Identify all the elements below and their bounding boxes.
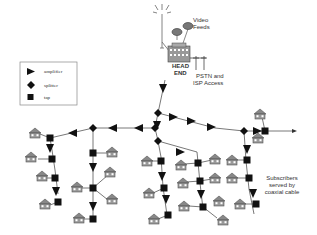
amplifier-icon [159, 84, 167, 93]
house-icon [143, 188, 155, 198]
amplifier-icon [68, 129, 77, 137]
tap-icon [49, 156, 56, 163]
svg-text:amplifier: amplifier [44, 69, 63, 74]
headend-building-icon [168, 43, 190, 62]
splitter-icon [154, 109, 162, 117]
house-icon [213, 196, 225, 206]
house-icon [209, 154, 221, 164]
subscribers-annotation: Subscribers served by coaxial cable [265, 175, 300, 195]
svg-text:splitter: splitter [44, 83, 58, 88]
amplifier-icon [134, 124, 143, 132]
tap-icon [165, 212, 172, 219]
tap-icon [195, 160, 202, 167]
splitter-icon [240, 127, 248, 135]
amplifier-icon [162, 195, 170, 204]
headend-group: Video Feeds HEAD END PSTN and ISP Access [153, 4, 224, 86]
house-icon [36, 171, 48, 181]
house-icon [175, 160, 187, 170]
amplifier-icon [108, 124, 117, 132]
house-icon [141, 156, 153, 166]
svg-text:coaxial cable: coaxial cable [265, 189, 300, 195]
amplifier-icon [197, 190, 205, 199]
tap-icon [90, 216, 97, 223]
amplifier-icon [207, 123, 216, 131]
house-icon [217, 215, 229, 225]
video-feeds-label: Video [193, 17, 209, 23]
splitter-icon [154, 137, 162, 145]
tap-icon [90, 150, 97, 157]
tap-icon [55, 199, 62, 206]
splitter-icon [89, 124, 97, 132]
house-icon [209, 173, 221, 183]
cable-network-diagram: Video Feeds HEAD END PSTN and ISP Access [0, 0, 317, 235]
house-icon [234, 199, 246, 209]
amplifier-icon [187, 117, 196, 125]
house-icon [29, 128, 41, 138]
amplifier-icon [169, 113, 178, 121]
house-icon [178, 201, 190, 211]
amplifier-icon [52, 187, 60, 196]
house-icon [148, 214, 160, 224]
tap-icon [197, 178, 204, 185]
house-icon [71, 182, 83, 192]
amplifier-icon [89, 163, 97, 172]
svg-text:served by: served by [269, 182, 295, 188]
tap-icon [253, 201, 260, 208]
tap-icon [158, 158, 165, 165]
svg-text:tap: tap [44, 95, 51, 100]
tap-icon [200, 204, 207, 211]
headend-label-2: END [174, 70, 187, 76]
tap-icon [246, 175, 253, 182]
amplifier-icon [89, 202, 97, 211]
amplifier-icon [243, 145, 251, 154]
house-icon [106, 194, 118, 204]
house-icon [73, 213, 85, 223]
tap-icon [161, 185, 168, 192]
video-feeds-label-2: Feeds [193, 24, 210, 30]
amplifier-icon [46, 144, 54, 153]
pstn-label-2: ISP Access [193, 80, 223, 86]
tap-icon [28, 94, 34, 100]
trunk-arrowhead [292, 129, 297, 133]
amplifier-icon [176, 148, 185, 156]
house-icon [106, 147, 118, 157]
svg-text:Subscribers: Subscribers [266, 175, 298, 181]
pstn-label: PSTN and [196, 73, 224, 79]
legend: amplifier splitter tap [20, 62, 77, 105]
tap-icon [262, 128, 269, 135]
headend-label: HEAD [172, 63, 190, 69]
house-icon [226, 155, 238, 165]
house-icon [177, 178, 189, 188]
tap-icon [47, 135, 54, 142]
house-icon [254, 109, 266, 119]
house-icon [226, 173, 238, 183]
pstn-pole-icon [190, 56, 207, 70]
tap-icon [244, 157, 251, 164]
tap-icon [52, 175, 59, 182]
house-icon [104, 167, 116, 177]
antenna-tower-icon [153, 4, 171, 52]
satellite-dish-icon [172, 23, 193, 47]
house-icon [39, 199, 51, 209]
house-icon [25, 152, 37, 162]
amplifier-icon [158, 172, 166, 181]
tap-icon [90, 185, 97, 192]
subscriber-houses [25, 109, 266, 225]
